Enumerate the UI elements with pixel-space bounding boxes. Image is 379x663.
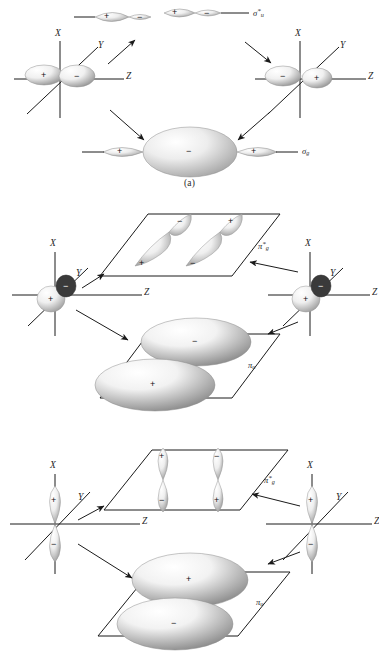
- sign-pi-g-star-c-3: −: [159, 496, 164, 505]
- label-sigma-g-sub: g: [306, 149, 309, 156]
- caption-panel-a: (a): [0, 178, 379, 188]
- pi-u-orbital-c: [117, 553, 248, 650]
- axis-label-x-right-b: X: [305, 238, 311, 248]
- axis-label-y-right-a: Y: [340, 40, 345, 50]
- axis-label-x-left-a: X: [55, 28, 61, 38]
- label-pi-u-c: πu: [256, 597, 263, 607]
- sign-sigma-u-star-2: −: [137, 13, 142, 22]
- axis-label-y-right-b: Y: [330, 268, 335, 278]
- arrow-right-to-antibonding-tail: [245, 42, 271, 63]
- axis-label-z-right-a: Z: [368, 71, 373, 81]
- sign-left-atom-b-2: −: [63, 282, 68, 291]
- axis-label-y-left-a: Y: [98, 40, 103, 50]
- axis-label-y-left-b: Y: [76, 268, 81, 278]
- panel-c-graphics: [0, 432, 379, 663]
- sign-sigma-u-star-1: +: [104, 12, 109, 21]
- label-pi-g-star-c: π*g: [264, 474, 275, 485]
- label-pi-u-c-sub: u: [260, 600, 263, 607]
- sign-pi-u-c-2: −: [171, 619, 176, 628]
- sign-right-atom-b-2: −: [318, 282, 323, 291]
- sign-pi-u-c-1: +: [186, 575, 191, 584]
- sign-right-atom-a-2: +: [314, 74, 319, 83]
- panel-a: X Y Z X Y Z + − − + + − + − + − + σ*u σg…: [0, 0, 379, 200]
- axis-label-z-left-c: Z: [142, 516, 147, 526]
- panel-b: X Y Z X Y Z + − + − − + + − − + π*g πu (…: [0, 200, 379, 432]
- arrow-left-to-bonding: [110, 110, 144, 140]
- axis-label-x-right-a: X: [295, 28, 301, 38]
- panel-b-graphics: [0, 200, 379, 432]
- arrow-right-to-bonding: [238, 112, 270, 140]
- sign-right-atom-c-2: −: [308, 540, 313, 549]
- pi-u-orbital-b: [95, 318, 251, 411]
- axis-label-z-left-b: Z: [144, 287, 149, 297]
- sign-pi-g-star-b-4: −: [190, 259, 195, 268]
- arrow-left-to-pi-u-c: [78, 544, 132, 578]
- label-pi-u-b: πu: [248, 360, 255, 370]
- sign-right-atom-c-1: +: [308, 496, 313, 505]
- axis-label-y-right-c: Y: [336, 492, 341, 502]
- sign-left-atom-c-1: +: [51, 496, 56, 505]
- sign-left-atom-b-1: +: [48, 295, 53, 304]
- sign-pi-g-star-c-2: −: [214, 452, 219, 461]
- label-sigma-u-star-sub: u: [261, 11, 264, 18]
- arrow-right-to-pi-star-b: [250, 262, 298, 272]
- label-pi-g-star-b: π*g: [258, 240, 269, 251]
- label-sigma-u-star: σ*u: [253, 7, 264, 18]
- sign-pi-g-star-b-3: +: [139, 259, 144, 268]
- panel-c: X Y Z X Y Z + − + − + − − + + − π*g πu (…: [0, 432, 379, 663]
- arrow-left-to-antibonding: [108, 40, 135, 64]
- sign-sigma-u-star-3: +: [172, 8, 177, 17]
- label-sigma-g: σg: [302, 146, 309, 156]
- sign-sigma-g-2: −: [186, 147, 191, 156]
- molecular-orbital-figure: X Y Z X Y Z + − − + + − + − + − + σ*u σg…: [0, 0, 379, 663]
- arrow-right-to-pi-u-b: [268, 322, 298, 334]
- sign-left-atom-a-1: +: [41, 71, 46, 80]
- label-pi-g-star-c-sub: g: [272, 478, 275, 485]
- left-atom-axes-b: [12, 252, 142, 336]
- arrow-left-to-pi-star-c: [78, 506, 104, 520]
- axis-label-x-left-b: X: [50, 238, 56, 248]
- sign-right-atom-b-1: +: [303, 295, 308, 304]
- left-atom-lobes-b: [37, 275, 76, 312]
- arrow-left-to-pi-u-b: [76, 310, 128, 340]
- label-pi-g-star-b-sub: g: [266, 244, 269, 251]
- label-pi-u-b-sub: u: [252, 363, 255, 370]
- axis-label-y-left-c: Y: [78, 492, 83, 502]
- sign-sigma-g-3: +: [251, 147, 256, 156]
- sign-left-atom-a-2: −: [74, 72, 79, 81]
- sigma-u-star-orbital: [74, 9, 249, 22]
- sign-pi-g-star-c-1: +: [159, 452, 164, 461]
- sign-pi-g-star-b-1: −: [177, 217, 182, 226]
- sign-left-atom-c-2: −: [51, 540, 56, 549]
- sign-sigma-u-star-4: −: [204, 9, 209, 18]
- right-atom-lobes-b: [292, 275, 331, 312]
- sign-pi-g-star-b-2: +: [228, 217, 233, 226]
- sign-pi-g-star-c-4: +: [214, 496, 219, 505]
- top-plane-c: [104, 450, 288, 510]
- axis-label-x-right-c: X: [307, 460, 313, 470]
- axis-label-z-right-c: Z: [374, 516, 379, 526]
- panel-a-arrows: [108, 40, 271, 140]
- arrow-right-to-pi-u-c: [268, 552, 300, 564]
- axis-label-x-left-c: X: [50, 460, 56, 470]
- sign-right-atom-a-1: −: [280, 72, 285, 81]
- arrow-left-to-pi-star-b: [82, 274, 104, 288]
- pi-g-star-orbital-b: [135, 214, 242, 266]
- axis-label-z-left-a: Z: [126, 71, 131, 81]
- sign-pi-u-b-1: −: [192, 337, 197, 346]
- axis-label-z-right-b: Z: [372, 287, 377, 297]
- sign-sigma-g-1: +: [117, 147, 122, 156]
- sign-pi-u-b-2: +: [150, 380, 155, 389]
- arrow-right-to-pi-star-c: [252, 494, 300, 506]
